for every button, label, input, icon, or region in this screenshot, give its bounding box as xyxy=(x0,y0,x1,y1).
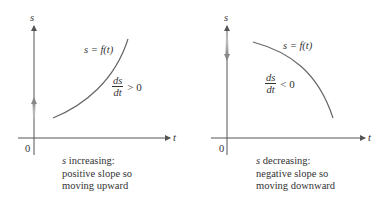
left-s-axis-label: s xyxy=(30,12,34,24)
down-arrow-icon xyxy=(224,32,230,61)
right-derivative-denominator: dt xyxy=(267,84,275,95)
left-derivative-fraction: ds dt xyxy=(112,75,123,98)
right-origin-label: 0 xyxy=(219,143,224,155)
right-derivative-numerator: ds xyxy=(265,72,276,84)
left-caption: s increasing: positive slope so moving u… xyxy=(62,155,132,193)
up-arrow-icon xyxy=(31,97,37,120)
left-derivative-denominator: dt xyxy=(114,87,122,98)
right-derivative-relation: < 0 xyxy=(280,78,294,90)
right-curve-label: s = f(t) xyxy=(283,40,312,52)
right-s-axis-label: s xyxy=(224,12,228,24)
left-derivative-relation: > 0 xyxy=(127,81,141,93)
right-caption: s decreasing: negative slope so moving d… xyxy=(256,155,335,193)
right-derivative-fraction: ds dt xyxy=(265,72,276,95)
right-caption-line-3: moving downward xyxy=(256,180,335,193)
left-derivative-numerator: ds xyxy=(112,75,123,87)
left-caption-line-1: s increasing: xyxy=(62,155,132,168)
right-t-axis-label: t xyxy=(368,132,371,144)
left-curve-label: s = f(t) xyxy=(84,44,113,56)
left-caption-line-2: positive slope so xyxy=(62,168,132,181)
right-derivative: ds dt < 0 xyxy=(265,72,295,95)
left-t-axis-label: t xyxy=(173,132,176,144)
right-caption-line-1: s decreasing: xyxy=(256,155,335,168)
left-origin-label: 0 xyxy=(25,143,30,155)
left-derivative: ds dt > 0 xyxy=(112,75,142,98)
right-caption-line-1-text: decreasing: xyxy=(260,155,310,166)
left-caption-line-1-text: increasing: xyxy=(66,155,115,166)
right-caption-line-2: negative slope so xyxy=(256,168,335,181)
left-caption-line-3: moving upward xyxy=(62,180,132,193)
